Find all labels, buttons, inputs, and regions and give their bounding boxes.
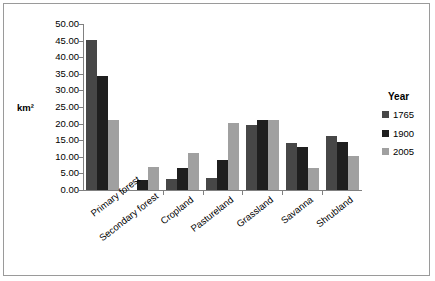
bar <box>188 153 199 190</box>
bar <box>177 168 188 190</box>
legend-label: 1900 <box>393 129 414 139</box>
legend-label: 2005 <box>393 147 414 157</box>
y-axis-tick-label: 15.00 <box>55 135 79 145</box>
y-axis-tick-label: 10.00 <box>55 152 79 162</box>
bar-group <box>206 24 239 190</box>
bar <box>337 142 348 190</box>
legend-swatch-icon <box>382 111 389 118</box>
legend-swatch-icon <box>382 130 389 137</box>
bar <box>166 179 177 190</box>
legend-label: 1765 <box>393 110 414 120</box>
legend-item: 2005 <box>382 147 434 157</box>
bar-group <box>326 24 359 190</box>
bar <box>97 76 108 190</box>
bar <box>297 147 308 190</box>
y-axis-tick-label: 35.00 <box>55 69 79 79</box>
y-axis-tick <box>79 173 83 174</box>
y-axis-tick <box>79 57 83 58</box>
y-axis-title: km² <box>17 102 34 113</box>
bar <box>348 156 359 190</box>
bar <box>246 125 257 190</box>
chart-frame: km² 50.0045.0040.0035.0030.0025.0020.001… <box>3 3 430 276</box>
y-axis-line <box>83 24 84 191</box>
y-axis-tick-label: 50.00 <box>55 19 79 29</box>
x-axis-category-labels: Primary forestSecondary forestCroplandPa… <box>83 192 373 272</box>
bar-group <box>126 24 159 190</box>
y-axis-tick <box>79 124 83 125</box>
y-axis-tick-label: 30.00 <box>55 85 79 95</box>
y-axis-tick <box>79 157 83 158</box>
y-axis-tick <box>79 107 83 108</box>
x-axis-category-label: Primary forest <box>88 194 115 219</box>
bar <box>148 167 159 190</box>
legend-item: 1765 <box>382 110 434 120</box>
y-axis-tick-label: 20.00 <box>55 119 79 129</box>
y-axis-tick <box>79 41 83 42</box>
bar <box>326 136 337 190</box>
y-axis-tick <box>79 190 83 191</box>
bar-group <box>86 24 119 190</box>
bar <box>268 120 279 190</box>
y-axis-tick-label: 45.00 <box>55 36 79 46</box>
y-axis-tick <box>79 24 83 25</box>
legend-title: Year <box>388 91 434 102</box>
bar <box>108 120 119 190</box>
y-axis-tick <box>79 74 83 75</box>
legend-items: 176519002005 <box>382 110 434 157</box>
y-axis-tick-labels: 50.0045.0040.0035.0030.0025.0020.0015.00… <box>34 24 79 190</box>
y-axis-tick-label: 5.00 <box>61 168 80 178</box>
legend: Year 176519002005 <box>382 91 434 166</box>
y-axis-tick-label: 25.00 <box>55 102 79 112</box>
y-axis-tick <box>79 90 83 91</box>
bar-group <box>246 24 279 190</box>
bar <box>286 143 297 190</box>
bar-group <box>166 24 199 190</box>
legend-swatch-icon <box>382 148 389 155</box>
y-axis-tick-label: 40.00 <box>55 52 79 62</box>
bar <box>228 123 239 190</box>
plot-area <box>83 24 362 190</box>
y-axis-tick-label: 0.00 <box>61 185 80 195</box>
bar <box>308 168 319 190</box>
bar <box>86 40 97 190</box>
bar <box>217 160 228 190</box>
legend-item: 1900 <box>382 129 434 139</box>
bar <box>206 178 217 190</box>
bar <box>257 120 268 190</box>
bar-group <box>286 24 319 190</box>
y-axis-tick <box>79 140 83 141</box>
